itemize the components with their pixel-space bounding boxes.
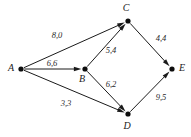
graph-diagram: 8,06,63,35,46,24,49,5 ABCDE [0,0,191,137]
edge-label-a-c: 8,0 [52,30,63,40]
edge-label-a-d: 3,3 [60,98,72,108]
node-label-e: E [178,62,185,73]
edge-label-b-d: 6,2 [106,79,117,89]
arrowhead-a-b-icon [74,67,82,71]
node-b[interactable] [82,66,87,71]
node-label-c: C [123,2,130,13]
edge-c-e [130,23,167,63]
edge-label-c-e: 4,4 [156,33,167,43]
node-d[interactable] [125,111,130,116]
edge-label-d-e: 9,5 [156,92,167,102]
node-label-b: B [79,73,85,84]
edge-b-d [87,71,122,108]
edge-label-a-b: 6,6 [47,58,58,68]
node-a[interactable] [18,66,23,71]
node-e[interactable] [169,66,174,71]
graph-canvas: 8,06,63,35,46,24,49,5 ABCDE [0,0,191,137]
node-c[interactable] [125,18,130,23]
edge-label-b-c: 5,4 [106,45,117,55]
node-labels-layer: ABCDE [7,2,185,131]
nodes-layer [18,18,174,116]
node-label-a: A [7,62,15,73]
node-label-d: D [122,120,131,131]
